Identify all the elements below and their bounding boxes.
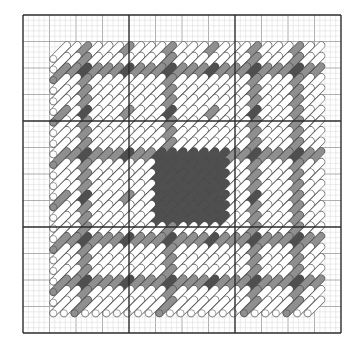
stitch-bead <box>50 267 57 274</box>
stitch-bead <box>50 246 57 253</box>
stitch-bead <box>92 310 99 317</box>
stitch-bead <box>283 310 290 317</box>
stitch-bead <box>188 310 195 317</box>
stitch-bead <box>71 310 78 317</box>
stitch-bead <box>124 310 131 317</box>
stitch-bead <box>209 310 216 317</box>
stitch-bead <box>50 55 57 62</box>
stitch-bead <box>50 161 57 168</box>
stitch-bead <box>50 140 57 147</box>
stitch-bead <box>50 214 57 221</box>
stitch-bead <box>50 278 57 285</box>
stitch-bead <box>177 310 184 317</box>
stitch-bead <box>50 77 57 84</box>
stitch-bead <box>50 310 57 317</box>
stitch-bead <box>50 257 57 264</box>
stitch-layer <box>50 45 321 316</box>
stitch-bead <box>50 87 57 94</box>
stitch-bead <box>50 299 57 306</box>
stitch-bead <box>294 310 301 317</box>
stitch-bead <box>113 310 120 317</box>
stitch-bead <box>50 204 57 211</box>
stitch-bead <box>50 225 57 232</box>
stitch-bead <box>50 172 57 179</box>
stitch-bead <box>230 310 237 317</box>
stitch-chart-root <box>0 0 362 350</box>
stitch-bead <box>262 310 269 317</box>
stitch-bead <box>156 310 163 317</box>
stitch-bead <box>251 310 258 317</box>
stitch-bead <box>50 119 57 126</box>
stitch-bead <box>50 236 57 243</box>
stitch-bead <box>304 310 311 317</box>
stitch-bead <box>60 310 67 317</box>
stitch-bead <box>219 310 226 317</box>
stitch-bead <box>50 289 57 296</box>
stitch-bead <box>145 310 152 317</box>
stitch-bead <box>50 183 57 190</box>
stitch-bead <box>198 310 205 317</box>
stitch-bead <box>50 108 57 115</box>
stitch-bead <box>50 66 57 73</box>
stitch-bead <box>50 151 57 158</box>
stitch-bead <box>135 310 142 317</box>
stitch-bead <box>50 130 57 137</box>
stitch-bead <box>103 310 110 317</box>
stitch-bead <box>50 98 57 105</box>
stitch-pattern-canvas <box>0 0 362 350</box>
stitch-bead <box>241 310 248 317</box>
stitch-bead <box>82 310 89 317</box>
stitch-bead <box>50 193 57 200</box>
stitch-bead <box>166 310 173 317</box>
stitch-bead <box>272 310 279 317</box>
